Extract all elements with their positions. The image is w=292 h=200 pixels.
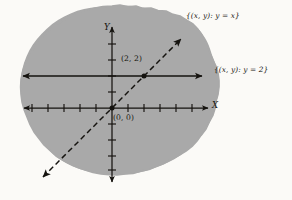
label-axis-y: Y <box>104 23 110 32</box>
point-marker-0-0 <box>110 106 115 111</box>
label-point-0-0: (0, 0) <box>113 114 134 122</box>
label-line-y-equals-x: {(x, y): y = x} <box>186 12 240 19</box>
label-axis-x: X <box>212 101 218 110</box>
figure-canvas <box>0 0 292 200</box>
label-line-y-equals-2: {(x, y): y = 2} <box>214 66 268 73</box>
coordinate-plane-figure: {(x, y): y = x} {(x, y): y = 2} (2, 2) (… <box>0 0 292 200</box>
shaded-region <box>21 5 220 175</box>
label-point-2-2: (2, 2) <box>121 55 142 63</box>
point-marker-2-2 <box>142 74 147 79</box>
